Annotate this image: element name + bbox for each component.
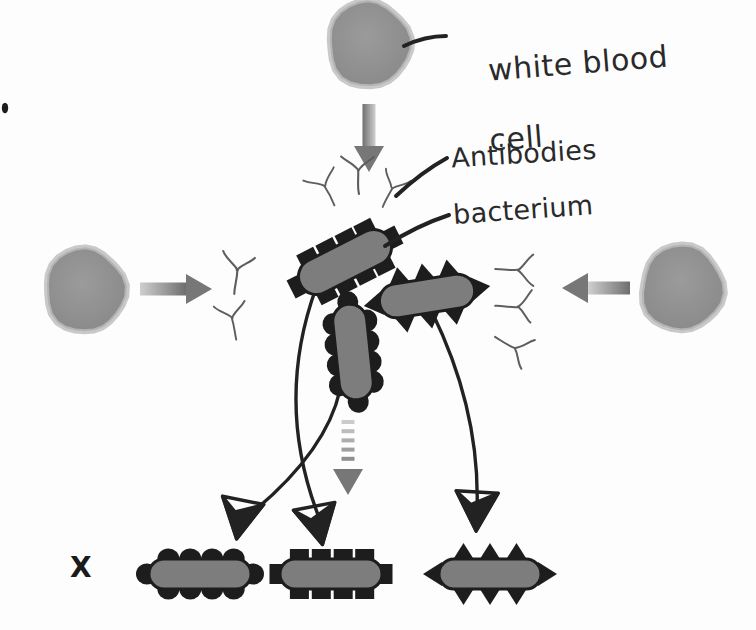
antibody-group-left bbox=[214, 251, 255, 343]
connector-upper-left-to-legend-square bbox=[296, 288, 320, 520]
antibody-icon bbox=[303, 165, 349, 213]
white-blood-cell-left bbox=[44, 245, 130, 334]
label-white-blood-cell-line1: white blood bbox=[487, 39, 669, 88]
antibody-icon bbox=[495, 289, 532, 323]
bacteria-layer bbox=[136, 210, 557, 605]
arrowhead-legend-spiked bbox=[452, 489, 498, 533]
cross-mark: X bbox=[70, 551, 92, 584]
antibody-icon bbox=[370, 169, 411, 214]
arrowhead-layer bbox=[213, 489, 498, 548]
antibody-group-top bbox=[303, 157, 411, 214]
connector-middle-to-legend-round bbox=[243, 390, 340, 520]
arrow-right-leftward bbox=[562, 273, 630, 303]
antibody-group-right bbox=[488, 253, 537, 368]
arrow-left-rightward bbox=[140, 274, 212, 304]
connector-right-spiked-to-legend-spiked bbox=[432, 312, 477, 510]
bacterium-legend-round-bumps bbox=[136, 549, 264, 600]
arrowhead-legend-round bbox=[213, 494, 263, 543]
antibody-icon bbox=[218, 251, 256, 296]
bacterium-legend-triangular-spikes bbox=[423, 543, 557, 605]
arrow-center-downward-dashed bbox=[333, 420, 363, 495]
white-blood-cell-right bbox=[639, 241, 729, 334]
antibody-icon bbox=[488, 323, 537, 369]
bacterium-legend-square-bumps bbox=[270, 549, 393, 599]
leader-line-antibodies bbox=[396, 158, 447, 196]
page-speck bbox=[2, 103, 8, 113]
diagram-page: white blood cell Antibodies bacterium X bbox=[0, 0, 756, 630]
antibody-icon bbox=[495, 253, 535, 286]
antibody-icon bbox=[214, 300, 252, 343]
